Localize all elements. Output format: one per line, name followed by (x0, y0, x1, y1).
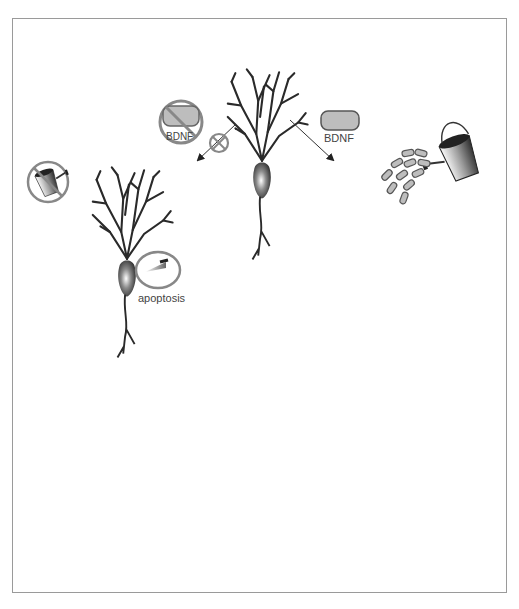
no-watering-can-icon (28, 162, 73, 202)
label-apoptosis: apoptosis (138, 292, 185, 304)
apoptosis-marker (136, 252, 180, 288)
bdnf-particles-icon (381, 149, 431, 205)
diagram-canvas (0, 0, 519, 609)
bdnf-capsule-icon (321, 111, 359, 130)
label-bdnf-supplied: BDNF (324, 132, 354, 144)
label-bdnf-blocked: BDNF (166, 131, 193, 142)
inhibit-icon (210, 134, 228, 152)
neuron-top (228, 69, 308, 259)
